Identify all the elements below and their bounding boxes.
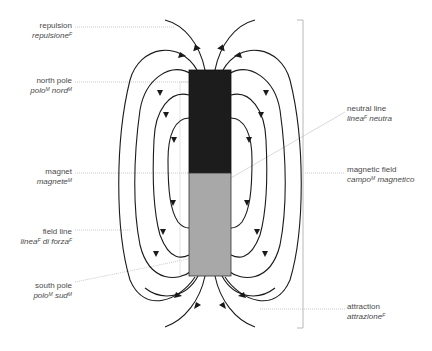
label-north-pole: north pole poloM nordM: [0, 76, 72, 96]
north-pole-block: [189, 70, 231, 173]
label-magnetic-field: magnetic field campoM magnetico: [347, 165, 432, 185]
label-field-line: field line lineaF di forzaF: [0, 227, 72, 247]
label-magnet: magnet magneteM: [0, 167, 72, 187]
label-attraction: attraction attrazioneF: [347, 302, 432, 322]
magnet: [189, 70, 231, 276]
label-neutral-line: neutral line lineaF neutra: [347, 104, 432, 124]
south-pole-block: [189, 173, 231, 276]
label-repulsion: repulsion repulsioneF: [0, 21, 72, 41]
label-south-pole: south pole poloM sudM: [0, 281, 72, 301]
magnetic-field-bracket: [297, 20, 303, 328]
